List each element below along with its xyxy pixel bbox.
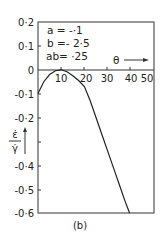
- y-tick-label: -0·5: [14, 185, 34, 196]
- figure-caption: (b): [73, 220, 87, 231]
- x-tick-label: 50: [141, 73, 154, 84]
- y-tick-label: 0·2: [18, 17, 34, 28]
- y-tick-label: -0·2: [14, 113, 34, 124]
- data-curve: [38, 70, 130, 213]
- annotation-a: a = -·1: [47, 24, 83, 36]
- right-arrow-icon: [124, 58, 149, 62]
- y-label-denominator: γ̇: [12, 143, 18, 154]
- annotation-ab: ab= ·25: [46, 50, 88, 62]
- y-axis-label: ε̇ γ̇: [9, 127, 27, 154]
- x-tick-label: 20: [80, 73, 93, 84]
- y-tick-label: -0·4: [14, 161, 34, 172]
- y-label-numerator: ε̇: [12, 129, 17, 140]
- x-tick-label: 10: [55, 73, 68, 84]
- x-tick-label: 40: [125, 73, 138, 84]
- chart-canvas: 10 20 30 40 50 0·2 0·1 0 -0·1 -0·2 -0·4 …: [0, 0, 163, 237]
- y-tick-label: 0: [28, 65, 34, 76]
- annotation-b: b =- 2·5: [47, 37, 90, 49]
- x-tick-label: 30: [101, 73, 114, 84]
- y-tick-label: -0·6: [14, 208, 34, 219]
- x-axis-label: θ: [113, 54, 119, 66]
- y-tick-label: 0·1: [18, 41, 34, 52]
- y-tick-label: -0·1: [14, 89, 34, 100]
